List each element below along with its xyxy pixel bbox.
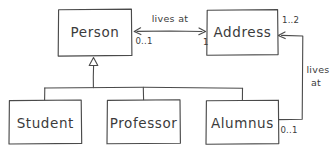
multiplicity-person-side: 0..1 [135, 36, 152, 46]
association-line-person-address [137, 31, 202, 32]
uml-class-diagram: Person Address Student Professor Alumnus… [0, 0, 333, 153]
diagram-canvas: Person Address Student Professor Alumnus… [0, 0, 333, 153]
association-alumnus-address [278, 32, 303, 120]
class-name-alumnus: Alumnus [211, 115, 274, 131]
class-box-student[interactable]: Student [9, 100, 82, 144]
class-box-professor[interactable]: Professor [107, 100, 180, 144]
association-label-lives-at-vertical-line1: lives [306, 64, 329, 75]
multiplicity-address-right-side: 1..2 [282, 15, 299, 25]
generalization-triangle-icon [89, 58, 98, 66]
class-name-person: Person [71, 24, 120, 40]
class-name-professor: Professor [110, 115, 178, 131]
class-box-person[interactable]: Person [58, 9, 132, 56]
association-label-lives-at-vertical-line2: at [311, 77, 321, 88]
association-label-lives-at: lives at [152, 13, 189, 24]
association-person-address [134, 28, 205, 35]
multiplicity-alumnus-side: 0..1 [280, 125, 297, 135]
class-name-student: Student [17, 115, 74, 131]
multiplicity-address-side: 1 [203, 37, 209, 47]
association-line-alumnus-address [278, 35, 302, 119]
class-box-address[interactable]: Address [207, 10, 278, 56]
generalization-tree [45, 58, 243, 101]
class-box-alumnus[interactable]: Alumnus [206, 100, 279, 144]
class-name-address: Address [214, 24, 272, 40]
